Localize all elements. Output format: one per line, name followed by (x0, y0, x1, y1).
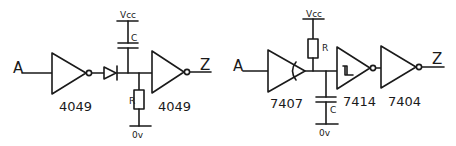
left-capacitor-label: C (131, 33, 137, 43)
right-output-label: Z (432, 50, 442, 68)
right-ground-label: 0v (319, 128, 331, 138)
inversion-bubble-icon (184, 69, 189, 74)
left-circuit: A 4049 Vcc C R 0v (13, 10, 211, 140)
right-schmitt-label: 7414 (343, 94, 376, 109)
right-resistor-label: R (322, 43, 328, 53)
left-ground-label: 0v (132, 130, 144, 140)
inversion-bubble-icon (416, 64, 421, 69)
right-vcc-label: Vcc (306, 9, 322, 19)
left-input-label: A (13, 59, 24, 77)
resistor-icon (134, 90, 144, 109)
right-circuit: A 7407 Vcc R C 0v 7414 (233, 9, 444, 138)
left-gate1-label: 4049 (59, 99, 92, 114)
left-gate2-label: 4049 (158, 99, 191, 114)
inversion-bubble-icon (86, 70, 91, 75)
open-collector-buffer (268, 50, 305, 92)
right-capacitor-label: C (330, 105, 336, 115)
left-output-label: Z (200, 56, 210, 74)
left-vcc-label: Vcc (120, 10, 136, 20)
right-buffer-label: 7407 (270, 96, 303, 111)
right-inverter-label: 7404 (388, 94, 421, 109)
left-inverter-1 (52, 53, 92, 94)
diode-icon (104, 66, 117, 80)
left-resistor-label: R (129, 96, 135, 106)
resistor-icon (308, 39, 318, 58)
circuit-diagram: A 4049 Vcc C R 0v (0, 0, 456, 146)
right-inverter (381, 46, 422, 88)
left-inverter-2 (152, 51, 190, 93)
schmitt-trigger-inverter (337, 47, 376, 89)
inversion-bubble-icon (370, 65, 375, 70)
right-input-label: A (233, 57, 244, 75)
